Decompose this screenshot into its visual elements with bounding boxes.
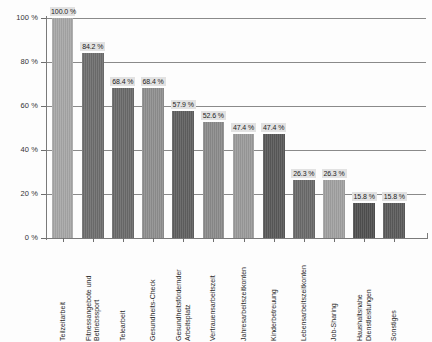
x-category-label-line: Betriebssport (93, 243, 102, 341)
x-category-label-line: Telearbeit (119, 243, 128, 341)
x-category-label-line: Arbeitsplatz (184, 243, 193, 341)
x-category-label: Jahresarbeitszeitkonten (240, 243, 249, 341)
bar-chart: 100.0 %84.2 %68.4 %68.4 %57.9 %52.6 %47.… (0, 0, 432, 342)
x-category-label-line: Fitnessangebote und (85, 243, 94, 341)
x-category-label: Teilzeitarbeit (59, 243, 68, 341)
category-labels: TeilzeitarbeitFitnessangebote undBetrieb… (0, 0, 432, 342)
x-category-label: Fitnessangebote undBetriebssport (85, 243, 102, 341)
x-category-label-line: Vertrauensarbeitszeit (209, 243, 218, 341)
x-category-label-line: Teilzeitarbeit (59, 243, 68, 341)
x-category-label-line: Haushaltsnahe (356, 243, 365, 341)
x-category-label: Kinderbetreuung (270, 243, 279, 341)
x-category-label: Sonstiges (390, 243, 399, 341)
x-category-label: HaushaltsnaheDienstleistungen (356, 243, 373, 341)
x-category-label-line: Sonstiges (390, 243, 399, 341)
x-category-label-line: Kinderbetreuung (270, 243, 279, 341)
x-category-label-line: Dienstleistungen (365, 243, 374, 341)
x-category-label-line: Gesundheits-Check (149, 243, 158, 341)
x-category-label: Gesundheits-Check (149, 243, 158, 341)
x-category-label-line: Jahresarbeitszeitkonten (240, 243, 249, 341)
x-category-label: Vertrauensarbeitszeit (209, 243, 218, 341)
x-category-label: Lebensarbeitszeitkonten (300, 243, 309, 341)
x-category-label-line: Lebensarbeitszeitkonten (300, 243, 309, 341)
x-category-label: GesundheitsfördernderArbeitsplatz (175, 243, 192, 341)
x-category-label: Telearbeit (119, 243, 128, 341)
x-category-label: Job-Sharing (330, 243, 339, 341)
x-category-label-line: Job-Sharing (330, 243, 339, 341)
x-category-label-line: Gesundheitsfördernder (175, 243, 184, 341)
